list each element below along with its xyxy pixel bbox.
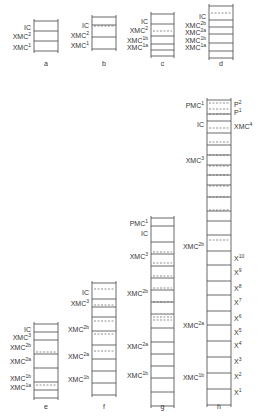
segment-label-left: XMC2a: [10, 356, 31, 365]
segment-label-left: XMC1b: [127, 370, 148, 379]
segment-label-right: X2: [234, 371, 242, 380]
segment-label-right: X6: [234, 313, 242, 322]
segment-label-left: IC: [197, 121, 204, 128]
segment-label-left: XMC2b: [183, 241, 204, 250]
panel-letter-e: e: [44, 403, 48, 410]
column-panel-e: ICXMC3XMC2bXMC2aXMC1bXMC1ae: [10, 322, 58, 410]
segment-label-left: IC: [141, 230, 148, 237]
column-panel-c: ICXMC2XMC1bXMC1ac: [127, 12, 174, 67]
xmc-column-diagram: ICXMC2XMC1aICXMC2XMC1bICXMC2XMC1bXMC1acI…: [0, 0, 264, 417]
panel-letter-c: c: [161, 60, 165, 67]
panel-letter-f: f: [103, 403, 105, 410]
segment-label-left: XMC1: [71, 40, 90, 49]
segment-label-right: X5: [234, 327, 242, 336]
segment-label-right: X3: [234, 356, 242, 365]
segment-label-left: XMC1a: [10, 382, 31, 391]
column-panel-a: ICXMC2XMC1a: [13, 19, 58, 67]
segment-label-right: X1: [234, 387, 242, 396]
segment-label-left: IC: [141, 18, 148, 25]
panel-letter-d: d: [219, 60, 223, 67]
panel-letter-a: a: [44, 60, 48, 67]
column-panel-d: ICXMC2bXMC2aXMC1bXMC1ad: [185, 4, 233, 67]
segment-label-left: IC: [82, 22, 89, 29]
segment-label-left: PMC1: [130, 218, 149, 227]
segment-label-left: XMC2a: [183, 320, 204, 329]
segment-label-left: XMC1b: [10, 373, 31, 382]
segment-label-left: XMC1a: [127, 42, 148, 51]
segment-label-left: XMC3: [71, 298, 90, 307]
segment-label-left: XMC3: [186, 155, 205, 164]
segment-label-left: XMC1a: [185, 42, 206, 51]
segment-label-right: X8: [234, 283, 242, 292]
panel-letter-b: b: [102, 60, 106, 67]
panel-letter-g: g: [161, 403, 165, 411]
segment-label-left: PMC1: [186, 100, 205, 109]
column-panel-f: ICXMC3XMC2bXMC2aXMC1bf: [68, 281, 116, 410]
segment-label-left: IC: [82, 289, 89, 296]
segment-label-left: XMC3: [130, 251, 149, 260]
segment-label-right: X10: [234, 253, 244, 262]
segment-label-left: IC: [199, 13, 206, 20]
segment-label-right: X7: [234, 297, 242, 306]
column-panel-h: PMC1ICXMC3XMC2bXMC2aXMC1bP2P1XMC4X10X9X8…: [183, 98, 253, 410]
segment-label-left: XMC2: [130, 25, 149, 34]
column-panel-g: PMC1ICXMC3XMC2bXMC2aXMC1bg: [127, 216, 174, 411]
segment-label-right: P1: [234, 107, 242, 116]
segment-label-left: IC: [24, 24, 31, 31]
segment-label-left: XMC2: [71, 30, 90, 39]
segment-label-left: XMC2: [13, 31, 32, 40]
panel-letter-h: h: [217, 403, 221, 410]
segment-label-left: XMC2b: [10, 342, 31, 351]
segment-label-right: X4: [234, 340, 242, 349]
segment-label-left: XMC2b: [68, 324, 89, 333]
segment-label-left: XMC2a: [127, 341, 148, 350]
segment-label-right: X9: [234, 267, 242, 276]
segment-label-left: XMC1b: [68, 374, 89, 383]
segment-label-left: XMC2b: [127, 288, 148, 297]
segment-label-left: XMC1b: [183, 372, 204, 381]
segment-label-left: XMC2a: [68, 351, 89, 360]
segment-label-left: XMC3: [13, 332, 32, 341]
column-panel-b: ICXMC2XMC1b: [71, 15, 116, 67]
segment-label-left: XMC1: [13, 42, 32, 51]
segment-label-right: XMC4: [234, 121, 253, 130]
